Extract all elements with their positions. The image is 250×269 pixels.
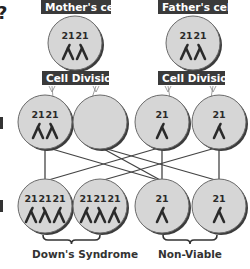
- zygote-cell: 212121: [73, 179, 129, 235]
- division-arrows: [49, 86, 216, 98]
- non-viable-label: Non-Viable: [150, 248, 230, 260]
- father-cell-division-label: Cell Division: [158, 71, 225, 85]
- chromosome-label: 21: [193, 30, 206, 41]
- connection-lines: [45, 147, 219, 181]
- cell-body: [73, 179, 127, 233]
- chromosome-label: 21: [52, 193, 65, 204]
- chromosome-tip: [199, 45, 201, 48]
- meiosis-diagram: ? 21212121212121212121212121212121 Mothe…: [0, 0, 250, 269]
- cell-body: [18, 95, 72, 149]
- chromosome-label: 21: [212, 109, 225, 120]
- chromosome-tip: [219, 124, 221, 127]
- chromosome-label: 21: [45, 109, 58, 120]
- cell-body: [73, 95, 127, 149]
- chromosome-tip: [38, 124, 40, 127]
- chromosome-tip: [68, 45, 70, 48]
- chromosome-label: 21: [93, 193, 106, 204]
- chromosome-tip: [31, 208, 33, 211]
- cell-body: [192, 95, 246, 149]
- diagram-canvas: 21212121212121212121212121212121: [0, 0, 250, 269]
- chromosome-label: 21: [179, 30, 192, 41]
- chromosome-label: 21: [155, 193, 168, 204]
- cell-body: [135, 95, 189, 149]
- cell-body: [192, 179, 246, 233]
- cell-body: [135, 179, 189, 233]
- chromosome-label: 21: [212, 193, 225, 204]
- non-viable-brace: [163, 235, 217, 244]
- gamete-cell: [73, 95, 129, 151]
- chromosome-tip: [81, 45, 83, 48]
- gamete-cell: 21: [135, 95, 191, 151]
- chromosome-tip: [44, 208, 46, 211]
- mother-cell: 2121: [48, 16, 104, 72]
- chromosome-label: 21: [31, 109, 44, 120]
- chromosome-label: 21: [155, 109, 168, 120]
- chromosome-label: 21: [75, 30, 88, 41]
- gamete-cell: 2121: [18, 95, 74, 151]
- outcome-braces: [43, 235, 217, 244]
- chromosome-tip: [86, 208, 88, 211]
- downs-syndrome-brace: [43, 235, 100, 244]
- chromosome-label: 21: [107, 193, 120, 204]
- chromosome-label: 21: [79, 193, 92, 204]
- father-cell: 2121: [166, 16, 222, 72]
- zygote-cell: 21: [135, 179, 191, 235]
- chromosome-tip: [162, 208, 164, 211]
- chromosome-tip: [186, 45, 188, 48]
- connection-line: [100, 147, 162, 181]
- chromosome-tip: [99, 208, 101, 211]
- downs-syndrome-label: Down's Syndrome: [30, 248, 162, 260]
- mother-cell-division-label: Cell Division: [42, 71, 109, 85]
- chromosome-label: 21: [61, 30, 74, 41]
- chromosome-tip: [59, 208, 61, 211]
- gamete-cell: 21: [192, 95, 248, 151]
- mother-cell-label: Mother's cell: [41, 0, 111, 14]
- chromosome-label: 21: [38, 193, 51, 204]
- chromosome-label: 21: [24, 193, 37, 204]
- chromosome-tip: [114, 208, 116, 211]
- zygote-cell: 21: [192, 179, 248, 235]
- chromosome-tip: [219, 208, 221, 211]
- chromosome-tip: [162, 124, 164, 127]
- cells: 21212121212121212121212121212121: [18, 16, 248, 235]
- cell-body: [48, 16, 102, 70]
- cell-body: [166, 16, 220, 70]
- cell-body: [18, 179, 72, 233]
- chromosome-tip: [51, 124, 53, 127]
- father-cell-label: Father's cell: [158, 0, 228, 14]
- zygote-cell: 212121: [18, 179, 74, 235]
